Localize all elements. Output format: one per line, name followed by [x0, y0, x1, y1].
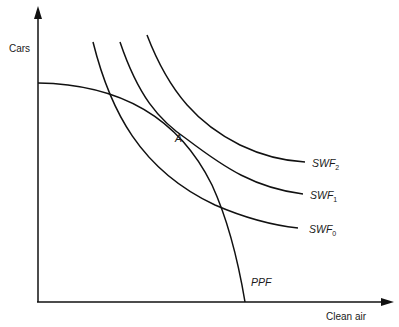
y-axis-label: Cars — [9, 43, 30, 54]
x-axis-arrow-icon — [381, 298, 394, 306]
diagram-canvas: Cars Clean air SWF2 SWF1 SWF0 PPF A — [0, 0, 399, 327]
swf1-label: SWF1 — [310, 189, 337, 203]
swf2-curve — [147, 35, 305, 162]
x-axis-label: Clean air — [326, 311, 367, 322]
swf2-label: SWF2 — [312, 157, 339, 171]
swf0-label: SWF0 — [309, 223, 336, 237]
swf1-curve — [120, 42, 303, 194]
ppf-label: PPF — [251, 276, 272, 288]
ppf-curve — [38, 83, 245, 302]
x-axis — [37, 298, 394, 306]
ppf-swf-diagram: Cars Clean air SWF2 SWF1 SWF0 PPF A — [0, 0, 399, 327]
point-a-label: A — [174, 132, 182, 144]
y-axis — [34, 6, 42, 302]
swf0-curve — [93, 42, 298, 228]
y-axis-arrow-icon — [34, 6, 42, 19]
